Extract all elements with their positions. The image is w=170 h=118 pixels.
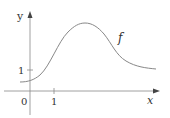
x-axis-arrow-icon: [153, 89, 160, 94]
origin-label: 0: [21, 96, 27, 107]
y-axis-arrow-icon: [28, 11, 33, 18]
y-axis-label: y: [16, 10, 24, 23]
y-tick-label: 1: [18, 65, 24, 76]
x-axis-label: x: [147, 94, 154, 107]
function-curve: [20, 23, 156, 82]
function-label: f: [117, 31, 125, 45]
x-tick-label: 1: [51, 96, 57, 107]
function-graph: y x 0 1 1 f: [0, 0, 170, 118]
